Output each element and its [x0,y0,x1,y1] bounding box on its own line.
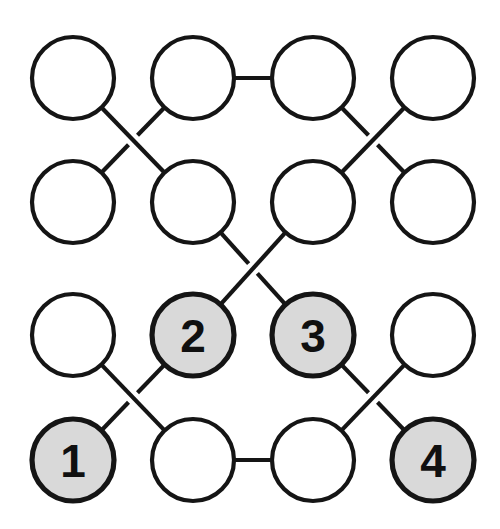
graph-edge [220,232,248,263]
node-label: 4 [420,435,446,487]
node-circle [32,294,114,376]
graph-node[interactable] [32,37,114,119]
edge-layer [44,78,461,490]
graph-node[interactable] [392,37,474,119]
graph-node[interactable] [272,419,354,501]
graph-node[interactable] [392,161,474,243]
node-label: 2 [180,310,206,362]
node-circle [392,37,474,119]
node-circle [392,294,474,376]
node-circle [392,161,474,243]
graph-node[interactable] [272,37,354,119]
graph-edge [341,365,368,393]
node-circle [152,37,234,119]
graph-node-shaded[interactable]: 2 [152,294,234,376]
graph-node[interactable] [32,294,114,376]
graph-edge [138,365,165,393]
node-circle [32,161,114,243]
graph-node[interactable] [272,161,354,243]
graph-node[interactable] [152,419,234,501]
graph-node-shaded[interactable]: 1 [32,419,114,501]
node-label: 3 [300,310,326,362]
node-circle [272,37,354,119]
graph-node-shaded[interactable]: 3 [272,294,354,376]
graph-node[interactable] [152,161,234,243]
node-circle [272,161,354,243]
graph-node[interactable] [392,294,474,376]
node-circle [32,37,114,119]
node-link-graph: 2314 [0,0,500,529]
node-circle [152,419,234,501]
node-label: 1 [60,435,86,487]
graph-edge [138,107,165,135]
graph-node[interactable] [152,37,234,119]
graph-node-shaded[interactable]: 4 [392,419,474,501]
node-circle [152,161,234,243]
node-circle [272,419,354,501]
diagram-canvas: 2314 [0,0,500,529]
graph-node[interactable] [32,161,114,243]
graph-edge [342,107,369,135]
